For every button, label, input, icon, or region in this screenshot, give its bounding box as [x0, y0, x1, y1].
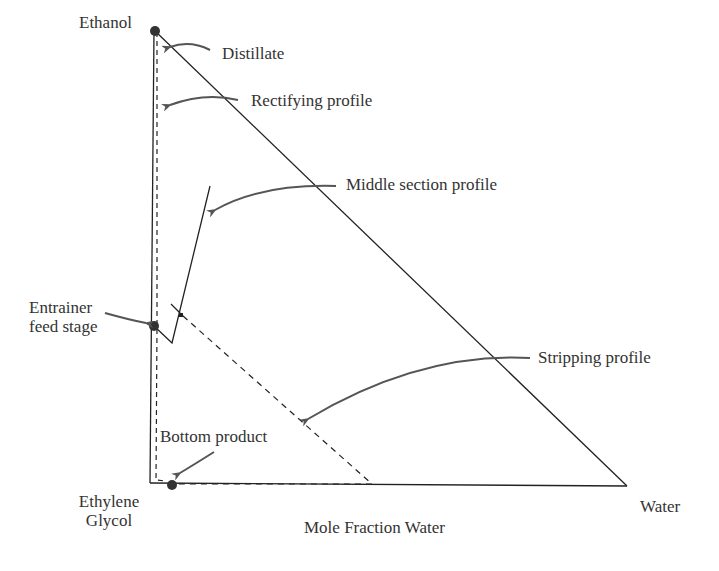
bottom-arrow-icon	[180, 452, 214, 473]
annotation-entrainer-line1: Entrainer	[29, 298, 97, 317]
entrainer-arrow-icon	[105, 313, 146, 323]
middle-section-profile	[154, 186, 210, 343]
vertex-label-ethanol: Ethanol	[79, 13, 132, 32]
distillate-point	[150, 26, 160, 36]
x-axis-label: Mole Fraction Water	[304, 518, 445, 537]
middle-arrow-icon	[215, 186, 336, 210]
middle-profile-marker	[179, 313, 183, 317]
bottom-product-point	[167, 480, 177, 490]
vertex-label-line2: Glycol	[64, 511, 154, 530]
vertex-label-ethylene-glycol: Ethylene Glycol	[64, 492, 154, 530]
annotation-middle-section: Middle section profile	[346, 175, 497, 194]
annotation-stripping: Stripping profile	[538, 348, 651, 367]
ternary-diagram	[0, 0, 719, 571]
triangle-outline	[150, 30, 627, 486]
stripping-arrow-icon	[308, 358, 530, 419]
distillate-arrow-icon	[170, 44, 210, 50]
annotation-entrainer-line2: feed stage	[29, 317, 97, 336]
annotation-distillate: Distillate	[222, 44, 284, 63]
vertex-label-line1: Ethylene	[64, 492, 154, 511]
entrainer-feed-point	[149, 321, 159, 331]
annotation-rectifying: Rectifying profile	[251, 91, 372, 110]
vertex-label-water: Water	[640, 497, 680, 516]
rectifying-profile	[156, 32, 165, 481]
annotation-entrainer-feed: Entrainer feed stage	[29, 298, 97, 336]
annotation-bottom-product: Bottom product	[160, 427, 267, 446]
